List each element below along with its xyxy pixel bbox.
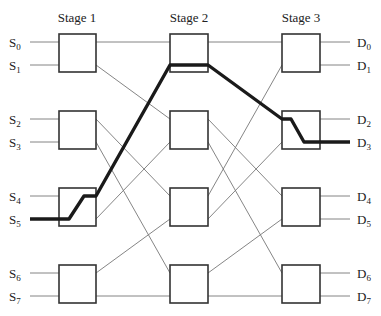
output-label-d5: D5	[357, 212, 371, 229]
input-label-s5: S5	[9, 212, 21, 229]
switching-network-diagram: Stage 1 Stage 2 Stage 3	[0, 0, 381, 316]
switch-1-1	[59, 111, 96, 149]
output-label-d6: D6	[357, 266, 371, 283]
stage-1-title: Stage 1	[58, 10, 97, 25]
switch-1-0	[59, 34, 96, 72]
output-label-d3: D3	[357, 135, 371, 152]
input-label-s2: S2	[9, 112, 21, 129]
stage-2-switches	[170, 34, 208, 303]
switch-2-1	[170, 111, 208, 149]
output-wires	[320, 42, 350, 296]
input-label-s6: S6	[9, 266, 21, 283]
stage-3-switches	[282, 34, 320, 303]
output-label-d0: D0	[357, 35, 371, 52]
input-label-s7: S7	[9, 289, 21, 306]
input-label-s4: S4	[9, 189, 21, 206]
output-labels: D0 D1 D2 D3 D4 D5 D6 D7	[357, 35, 371, 306]
switch-3-0	[282, 34, 320, 72]
input-label-s0: S0	[9, 35, 21, 52]
output-label-d2: D2	[357, 112, 371, 129]
switch-3-3	[282, 265, 320, 303]
switch-2-2	[170, 188, 208, 226]
switch-3-2	[282, 188, 320, 226]
input-label-s3: S3	[9, 135, 21, 152]
output-label-d7: D7	[357, 289, 371, 306]
output-label-d1: D1	[357, 58, 371, 75]
switch-1-3	[59, 265, 96, 303]
stage-2-title: Stage 2	[170, 10, 209, 25]
stage-3-title: Stage 3	[282, 10, 321, 25]
stage-1-switches	[59, 34, 96, 303]
input-wires	[30, 42, 59, 296]
switch-2-3	[170, 265, 208, 303]
stage1-stage2-wires	[96, 42, 170, 296]
input-labels: S0 S1 S2 S3 S4 S5 S6 S7	[9, 35, 21, 306]
stage2-stage3-wires	[208, 42, 282, 296]
input-label-s1: S1	[9, 58, 21, 75]
output-label-d4: D4	[357, 189, 371, 206]
